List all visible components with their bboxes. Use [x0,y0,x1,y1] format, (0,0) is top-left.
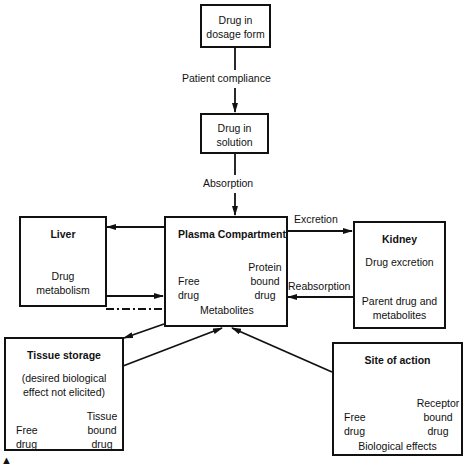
node-kidney: Kidney Drug excretion Parent drug and me… [353,221,446,329]
node-liver: Liver Drug metabolism [19,216,107,307]
site-free-line1: Free [344,411,366,424]
edge-label-excretion: Excretion [294,213,338,226]
site-bound-line2: bound [412,411,464,424]
tissue-bound-line1: Tissue [80,410,124,423]
plasma-bound-line1: Protein [240,261,290,274]
site-biological-effects: Biological effects [334,440,461,453]
kidney-drug-excretion: Drug excretion [355,256,444,269]
node-site-of-action: Site of action Free drug Receptor bound … [332,342,463,456]
kidney-parent-line1: Parent drug and [355,295,444,308]
plasma-free-line2: drug [178,289,199,302]
node-tissue-storage: Tissue storage (desired biological effec… [4,337,124,451]
plasma-title: Plasma Compartment [178,228,286,241]
tissue-note-line2: effect not elicited) [6,386,122,399]
tissue-free-line1: Free [16,424,38,437]
plasma-free-line1: Free [178,275,200,288]
tissue-bound-line2: bound [80,424,124,437]
edge-label-absorption: Absorption [203,177,253,190]
site-bound-line3: drug [412,425,464,438]
node-plasma-compartment: Plasma Compartment Free drug Protein bou… [164,216,288,327]
liver-body-line1: Drug [21,270,105,283]
solution-line2: solution [202,136,267,149]
edge-label-patient-compliance: Patient compliance [182,72,271,85]
liver-body-line2: metabolism [21,284,105,297]
tissue-note-line1: (desired biological [6,372,122,385]
tissue-free-line2: drug [16,438,37,451]
site-free-line2: drug [344,425,365,438]
kidney-parent-line2: metabolites [355,309,444,322]
site-bound-line1: Receptor [412,397,464,410]
plasma-bound-line3: drug [240,289,290,302]
liver-title: Liver [21,228,105,241]
plasma-bound-line2: bound [240,275,290,288]
node-dosage-form: Drug in dosage form [200,4,271,48]
tissue-title: Tissue storage [6,349,122,362]
edge-label-reabsorption: Reabsorption [288,280,350,293]
tissue-bound-line3: drug [80,438,124,451]
corner-marker-icon: ▲ [1,455,12,466]
plasma-metabolites: Metabolites [200,304,254,317]
dosage-form-line2: dosage form [202,28,269,41]
node-drug-in-solution: Drug in solution [200,113,269,154]
kidney-title: Kidney [355,233,444,246]
dosage-form-line1: Drug in [202,14,269,27]
site-title: Site of action [334,354,461,367]
solution-line1: Drug in [202,122,267,135]
